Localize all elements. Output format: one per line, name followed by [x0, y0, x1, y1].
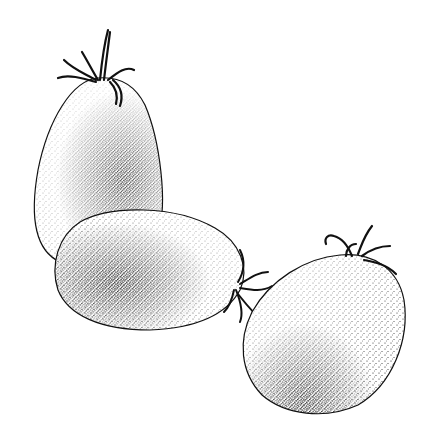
tomatoes-illustration	[0, 0, 431, 439]
illustration-canvas: Three plum (Roma) tomatoes	[0, 0, 431, 439]
tilted-tomato	[230, 226, 420, 430]
